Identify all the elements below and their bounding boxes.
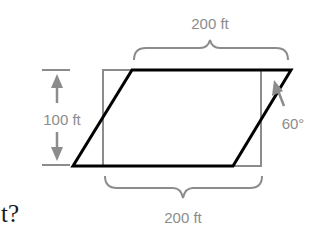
arrow-down-icon (51, 147, 63, 161)
question-fragment: t? (1, 200, 19, 227)
bottom-width-label: 200 ft (164, 209, 202, 226)
bottom-brace (105, 176, 262, 198)
reference-rectangle (103, 70, 261, 166)
arrow-up-icon (51, 74, 63, 88)
parallelogram (73, 70, 291, 166)
top-width-label: 200 ft (191, 15, 229, 32)
parallelogram-diagram: 200 ft 200 ft 100 ft 60° t? (0, 0, 332, 248)
angle-label: 60° (282, 115, 305, 132)
height-label: 100 ft (43, 111, 81, 128)
top-brace (134, 40, 288, 60)
